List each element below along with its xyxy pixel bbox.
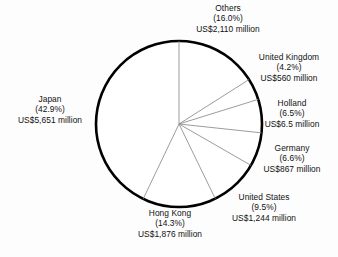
pie-label-hong-kong-percent: (14.3%): [118, 218, 222, 228]
pie-label-united-states: United States (9.5%) US$1,244 million: [212, 192, 316, 223]
pie-label-japan-value: US$5,651 million: [2, 115, 98, 125]
pie-label-germany-value: US$867 million: [246, 164, 338, 174]
pie-label-holland: Holland (6.5%) US$6.5 million: [246, 98, 338, 129]
pie-label-hong-kong: Hong Kong (14.3%) US$1,876 million: [118, 208, 222, 239]
pie-label-united-states-percent: (9.5%): [212, 202, 316, 212]
pie-label-japan-name: Japan: [2, 94, 98, 104]
pie-label-united-kingdom: United Kingdom (4.2%) US$560 million: [240, 52, 338, 83]
pie-chart: Others (16.0%) US$2,110 million United K…: [0, 0, 338, 257]
pie-label-holland-value: US$6.5 million: [246, 119, 338, 129]
pie-label-others-name: Others: [168, 3, 288, 13]
pie-label-united-states-name: United States: [212, 192, 316, 202]
pie-label-united-kingdom-percent: (4.2%): [240, 62, 338, 72]
pie-label-united-kingdom-value: US$560 million: [240, 73, 338, 83]
pie-label-hong-kong-value: US$1,876 million: [118, 229, 222, 239]
pie-label-holland-name: Holland: [246, 98, 338, 108]
pie-label-hong-kong-name: Hong Kong: [118, 208, 222, 218]
pie-label-holland-percent: (6.5%): [246, 108, 338, 118]
pie-label-germany-name: Germany: [246, 143, 338, 153]
pie-label-others: Others (16.0%) US$2,110 million: [168, 3, 288, 34]
pie-label-japan: Japan (42.9%) US$5,651 million: [2, 94, 98, 125]
pie-label-germany-percent: (6.6%): [246, 153, 338, 163]
pie-label-others-value: US$2,110 million: [168, 24, 288, 34]
pie-label-germany: Germany (6.6%) US$867 million: [246, 143, 338, 174]
pie-label-united-kingdom-name: United Kingdom: [240, 52, 338, 62]
pie-label-japan-percent: (42.9%): [2, 104, 98, 114]
pie-label-united-states-value: US$1,244 million: [212, 213, 316, 223]
pie-label-others-percent: (16.0%): [168, 13, 288, 23]
